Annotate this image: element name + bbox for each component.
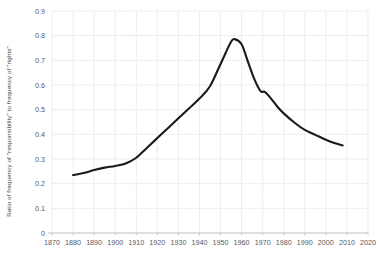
chart-container: Ratio of frequency of "responsibility" t…	[0, 0, 380, 263]
x-tick-label: 1940	[191, 238, 207, 247]
y-tick-label: 0.7	[35, 56, 45, 65]
x-tick-label: 1960	[234, 238, 250, 247]
y-tick-label: 0.4	[35, 130, 45, 139]
y-tick-label: 0.2	[35, 179, 45, 188]
y-tick-label: 0.6	[35, 81, 45, 90]
y-tick-label: 0.9	[35, 7, 45, 16]
data-series-line	[73, 39, 343, 175]
y-axis-tick-labels: 00.10.20.30.40.50.60.70.80.9	[35, 7, 45, 238]
y-tick-label: 0.3	[35, 155, 45, 164]
x-tick-label: 1910	[128, 238, 144, 247]
x-tick-label: 1930	[170, 238, 186, 247]
x-tick-label: 1920	[149, 238, 165, 247]
y-tick-label: 0.8	[35, 31, 45, 40]
x-tick-label: 1950	[213, 238, 229, 247]
x-tick-label: 1900	[107, 238, 123, 247]
x-tick-label: 1970	[255, 238, 271, 247]
line-chart-plot: 00.10.20.30.40.50.60.70.80.9 18701880189…	[0, 0, 380, 263]
x-tick-label: 2020	[360, 238, 376, 247]
x-tick-label: 1990	[297, 238, 313, 247]
y-tick-label: 0	[41, 229, 45, 238]
x-tick-label: 1880	[65, 238, 81, 247]
y-tick-label: 0.5	[35, 105, 45, 114]
x-tick-label: 1890	[86, 238, 102, 247]
x-tick-label: 2010	[339, 238, 355, 247]
x-tick-label: 1980	[276, 238, 292, 247]
x-tick-label: 1870	[44, 238, 60, 247]
y-tick-label: 0.1	[35, 204, 45, 213]
x-tick-label: 2000	[318, 238, 334, 247]
gridlines	[52, 11, 368, 233]
x-axis-tick-labels: 1870188018901900191019201930194019501960…	[44, 238, 376, 247]
